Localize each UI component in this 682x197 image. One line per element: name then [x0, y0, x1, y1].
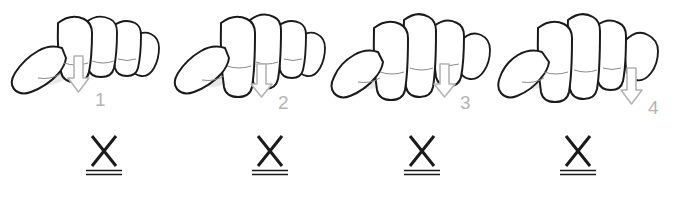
symbol-3 [330, 128, 500, 183]
hand-fingers-curled-icon [332, 14, 491, 100]
panel-1: 1 [0, 0, 170, 197]
panel-2: 2 [166, 0, 336, 197]
hand-illustration-1: 1 [0, 6, 170, 124]
finger-number-label-4: 4 [648, 97, 659, 118]
hand-fingers-curled-icon [175, 15, 325, 97]
x-double-underline-symbol [86, 136, 122, 175]
hand-illustration-2: 2 [166, 6, 336, 124]
symbol-2 [166, 128, 336, 183]
panel-3: 3 [330, 0, 500, 197]
panel-4: 4 [498, 0, 668, 197]
hand-illustration-3: 3 [330, 6, 500, 124]
x-double-underline-symbol [560, 136, 596, 175]
symbol-1 [0, 128, 170, 183]
x-double-underline-symbol [404, 136, 440, 175]
finger-number-label-2: 2 [278, 92, 289, 113]
symbol-4 [498, 128, 668, 183]
x-double-underline-symbol [252, 136, 288, 175]
finger-number-label-3: 3 [460, 92, 471, 113]
hand-illustration-4: 4 [498, 6, 668, 124]
finger-number-label-1: 1 [95, 89, 106, 110]
finger-designation-figure: 1 [0, 0, 682, 197]
